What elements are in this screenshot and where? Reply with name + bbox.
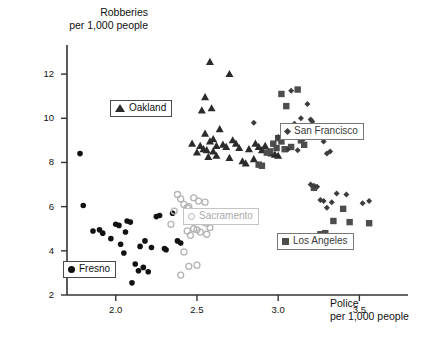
legend-fresno-label: Fresno — [79, 263, 110, 275]
data-point — [178, 240, 184, 246]
data-point — [121, 250, 127, 256]
data-point — [198, 106, 206, 113]
legend-sacramento[interactable]: Sacramento — [183, 208, 259, 225]
data-point — [225, 70, 233, 77]
data-point — [340, 206, 346, 212]
data-point — [250, 155, 258, 162]
x-tick-label: 2.5 — [182, 304, 212, 315]
y-tick-label: 4 — [30, 245, 54, 256]
data-point — [186, 263, 192, 269]
legend-los-angeles-label: Los Angeles — [293, 235, 348, 247]
data-point — [301, 142, 307, 148]
data-point — [123, 229, 129, 235]
data-point — [207, 225, 213, 231]
data-point — [206, 58, 214, 65]
data-point — [80, 203, 86, 209]
diamond-icon — [284, 127, 291, 134]
legend-los-angeles[interactable]: Los Angeles — [277, 233, 354, 250]
legend-fresno[interactable]: Fresno — [63, 261, 116, 278]
data-point — [163, 247, 169, 253]
circle-open-icon — [188, 213, 195, 220]
data-point — [329, 199, 335, 205]
data-point — [168, 221, 174, 227]
data-point — [90, 228, 96, 234]
plot-area — [0, 0, 441, 341]
legend-sacramento-label: Sacramento — [199, 210, 253, 222]
data-point — [136, 268, 142, 274]
data-point — [225, 154, 233, 161]
data-point — [295, 147, 301, 153]
scatter-chart: Robberiesper 1,000 people Policeper 1,00… — [0, 0, 441, 341]
data-point — [178, 272, 184, 278]
data-point — [100, 230, 106, 236]
circle-filled-icon — [68, 266, 75, 273]
x-tick-label: 3.5 — [344, 304, 374, 315]
data-point — [330, 218, 336, 224]
data-point — [194, 262, 200, 268]
legend-san-francisco[interactable]: San Francisco — [280, 123, 364, 140]
data-point — [181, 249, 187, 255]
data-point — [118, 241, 124, 247]
series-los-angeles — [255, 86, 372, 242]
data-point — [212, 142, 220, 149]
y-tick-label: 10 — [30, 112, 54, 123]
data-point — [141, 265, 147, 271]
y-tick-label: 8 — [30, 156, 54, 167]
x-tick-label: 3.0 — [263, 304, 293, 315]
data-point — [366, 198, 372, 204]
data-point — [196, 198, 202, 204]
data-point — [145, 269, 151, 275]
data-point — [288, 88, 294, 94]
data-point — [204, 231, 210, 237]
data-point — [245, 145, 253, 152]
data-point — [346, 219, 352, 225]
data-point — [366, 220, 372, 226]
legend-oakland-label: Oakland — [129, 102, 166, 114]
data-point — [208, 104, 216, 111]
data-point — [142, 238, 148, 244]
data-point — [128, 219, 134, 225]
data-point — [157, 213, 163, 219]
data-point — [108, 236, 114, 242]
data-point — [278, 91, 284, 97]
series-sacramento — [168, 191, 213, 278]
data-point — [298, 115, 304, 121]
data-point — [343, 191, 349, 197]
data-point — [360, 200, 366, 206]
data-point — [273, 145, 279, 151]
data-point — [202, 199, 208, 205]
data-point — [259, 163, 265, 169]
triangle-icon — [115, 104, 125, 112]
data-point — [201, 93, 209, 100]
data-point — [149, 245, 155, 251]
data-point — [201, 130, 209, 137]
data-point — [264, 149, 270, 155]
data-point — [283, 103, 289, 109]
data-point — [137, 244, 143, 250]
data-point — [304, 101, 310, 107]
data-point — [188, 139, 196, 146]
data-point — [77, 151, 83, 157]
data-point — [216, 125, 224, 132]
data-point — [261, 142, 269, 149]
data-point — [334, 190, 340, 196]
data-point — [132, 261, 138, 267]
data-point — [324, 205, 330, 211]
square-icon — [282, 238, 289, 245]
y-tick-label: 12 — [30, 68, 54, 79]
y-tick-label: 2 — [30, 289, 54, 300]
data-point — [187, 232, 193, 238]
data-point — [129, 280, 135, 286]
y-tick-label: 6 — [30, 201, 54, 212]
data-point — [116, 223, 122, 229]
legend-oakland[interactable]: Oakland — [110, 100, 172, 117]
legend-san-francisco-label: San Francisco — [294, 125, 358, 137]
x-tick-label: 2.0 — [101, 304, 131, 315]
data-point — [251, 120, 257, 126]
data-point — [294, 86, 300, 92]
